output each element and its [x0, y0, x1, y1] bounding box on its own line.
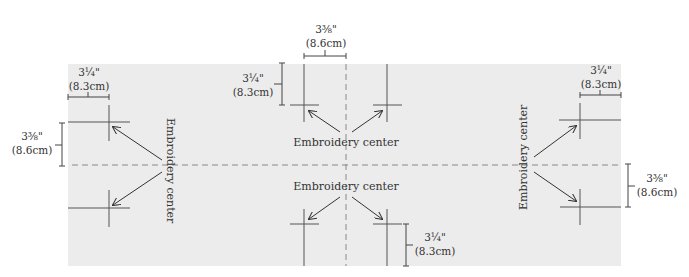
- bottom-center-label: Embroidery center: [293, 180, 399, 193]
- left-center-label: Embroidery center: [164, 118, 177, 224]
- dimension-cm: (8.6cm): [12, 144, 53, 156]
- dimension-inches: 3¼": [424, 231, 446, 243]
- dimension-inches: 3¼": [242, 72, 264, 84]
- dimension-cm: (8.3cm): [581, 78, 622, 90]
- dimension-inches: 3¼": [78, 66, 100, 78]
- dimension-cm: (8.3cm): [233, 86, 274, 98]
- right-center-label: Embroidery center: [517, 104, 530, 210]
- dimension-cm: (8.6cm): [637, 186, 678, 198]
- dimension-cm: (8.3cm): [415, 245, 456, 257]
- dimension-inches: 3¼": [590, 64, 612, 76]
- dimension-cm: (8.3cm): [69, 80, 110, 92]
- dimension-inches: 3⅜": [315, 23, 337, 35]
- dimension-cm: (8.6cm): [306, 37, 347, 49]
- dimension-inches: 3⅜": [646, 172, 668, 184]
- top-center-label: Embroidery center: [293, 136, 399, 149]
- dimension-inches: 3⅜": [21, 130, 43, 142]
- embroidery-diagram: Embroidery center 3¼" (8.3cm) 3⅜" (8.6cm…: [0, 0, 689, 277]
